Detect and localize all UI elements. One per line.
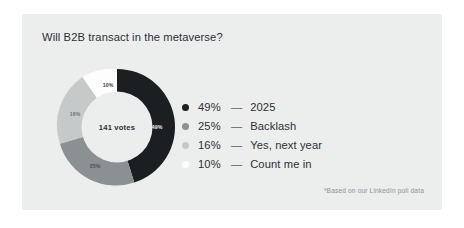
- legend-dot-2025: [182, 104, 189, 111]
- legend-percent-count-me-in: 10%: [198, 158, 229, 170]
- donut-slice-label-count-me-in: 10%: [103, 82, 114, 88]
- legend-label-2025: 2025: [250, 101, 275, 113]
- legend-item-yes-next-year[interactable]: 16% — Yes, next year: [182, 136, 362, 154]
- legend-percent-backlash: 25%: [198, 120, 229, 132]
- legend-item-count-me-in[interactable]: 10% — Count me in: [182, 155, 362, 173]
- legend-separator: —: [231, 101, 242, 113]
- donut-slice-label-backlash: 25%: [90, 163, 101, 169]
- chart-legend: 49% — 2025 25% — Backlash 16% — Yes, nex…: [182, 98, 362, 174]
- legend-label-backlash: Backlash: [250, 120, 296, 132]
- source-footnote: *Based on our LinkedIn poll data: [324, 187, 424, 194]
- legend-item-2025[interactable]: 49% — 2025: [182, 98, 362, 116]
- legend-separator: —: [231, 139, 242, 151]
- legend-item-backlash[interactable]: 25% — Backlash: [182, 117, 362, 135]
- page-title: Will B2B transact in the metaverse?: [42, 30, 223, 44]
- screenshot-root: Will B2B transact in the metaverse? 49% …: [0, 0, 464, 228]
- poll-result-card: Will B2B transact in the metaverse? 49% …: [22, 14, 442, 210]
- legend-separator: —: [231, 120, 242, 132]
- legend-percent-yes-next-year: 16%: [198, 139, 229, 151]
- legend-separator: —: [231, 158, 242, 170]
- legend-dot-backlash: [182, 123, 189, 130]
- donut-slice-label-yes-next-year: 16%: [70, 111, 81, 117]
- legend-label-yes-next-year: Yes, next year: [250, 139, 322, 151]
- donut-center-label: 141 votes: [99, 123, 135, 132]
- donut-chart-svg: 49% 25% 16% 10% 141 votes: [56, 64, 178, 190]
- donut-chart: 49% 25% 16% 10% 141 votes: [56, 64, 178, 190]
- legend-percent-2025: 49%: [198, 101, 229, 113]
- donut-slice-label-2025: 49%: [152, 124, 163, 130]
- legend-dot-yes-next-year: [182, 142, 189, 149]
- legend-label-count-me-in: Count me in: [250, 158, 311, 170]
- legend-dot-count-me-in: [182, 161, 189, 168]
